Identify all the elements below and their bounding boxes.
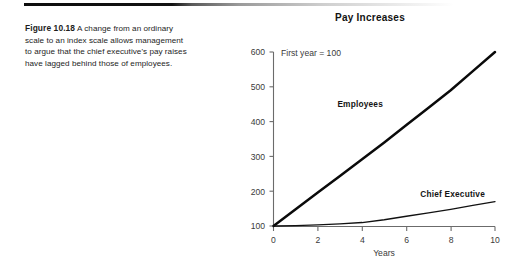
x-tick-label-0: 0	[271, 235, 276, 245]
x-tick-label-2: 2	[316, 235, 321, 245]
figure-number: Figure 10.18	[25, 23, 75, 33]
x-tick-label-8: 8	[449, 235, 454, 245]
series-line-employees	[274, 52, 496, 226]
y-tick-label-400: 400	[251, 117, 266, 127]
chart-annotation: First year = 100	[281, 48, 341, 58]
series-line-chief-executive	[274, 202, 496, 226]
y-tick-marks	[270, 52, 274, 226]
chart-container: Pay Increases 600 500 400 300 200 100	[215, 0, 525, 272]
y-tick-label-300: 300	[251, 152, 266, 162]
line-chart-plot: 600 500 400 300 200 100 0 2 4 6 8 10 Yea…	[215, 0, 525, 272]
x-tick-label-4: 4	[360, 235, 365, 245]
y-tick-label-600: 600	[251, 47, 266, 57]
x-tick-marks	[274, 227, 496, 232]
x-tick-label-10: 10	[490, 235, 500, 245]
x-tick-label-6: 6	[404, 235, 409, 245]
series-label-chief-executive: Chief Executive	[420, 189, 485, 199]
y-tick-label-200: 200	[251, 187, 266, 197]
series-label-employees: Employees	[337, 99, 383, 109]
y-tick-label-100: 100	[251, 221, 266, 231]
figure-caption: Figure 10.18 A change from an ordinary s…	[25, 23, 190, 69]
x-axis-title: Years	[373, 248, 395, 258]
y-tick-label-500: 500	[251, 82, 266, 92]
